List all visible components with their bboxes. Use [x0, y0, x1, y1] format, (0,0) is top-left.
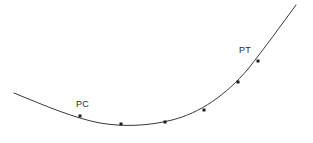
station-marker-1 — [120, 123, 123, 126]
station-marker-4 — [237, 81, 240, 84]
horizontal-curve-diagram: PC PT — [0, 0, 313, 143]
pt-station-marker — [257, 60, 260, 63]
station-marker-2 — [164, 121, 167, 124]
pc-label: PC — [76, 100, 89, 109]
station-marker-3 — [203, 109, 206, 112]
pc-station-marker — [79, 115, 82, 118]
pt-label: PT — [239, 46, 251, 55]
curve-canvas — [0, 0, 313, 143]
station-marker-group — [79, 60, 260, 126]
curve-path — [14, 5, 296, 125]
